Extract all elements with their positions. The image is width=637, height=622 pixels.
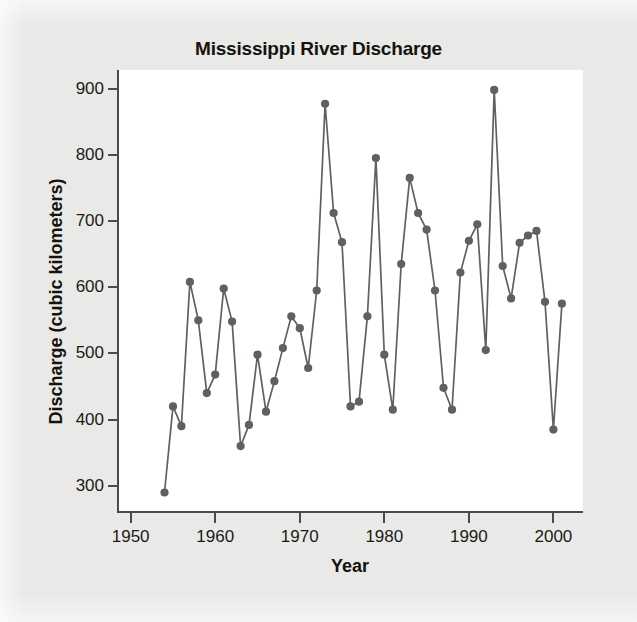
x-tick-2000 <box>552 513 554 523</box>
x-tick-label: 1960 <box>175 527 255 547</box>
x-tick-label: 1990 <box>429 527 509 547</box>
y-tick-500 <box>108 352 117 354</box>
y-tick-600 <box>108 286 117 288</box>
x-tick-label: 1980 <box>344 527 424 547</box>
x-tick-1970 <box>299 513 301 523</box>
x-tick-1990 <box>468 513 470 523</box>
y-axis-line <box>117 70 119 512</box>
x-tick-label: 1970 <box>260 527 340 547</box>
x-tick-label: 1950 <box>91 527 171 547</box>
x-axis-label: Year <box>117 556 583 577</box>
chart-title: Mississippi River Discharge <box>0 38 637 60</box>
x-axis-line <box>117 511 583 513</box>
y-tick-label: 900 <box>42 79 104 99</box>
x-tick-1960 <box>214 513 216 523</box>
x-tick-1980 <box>383 513 385 523</box>
y-axis-label: Discharge (cubic kilometers) <box>46 112 67 492</box>
y-tick-800 <box>108 154 117 156</box>
y-tick-400 <box>108 419 117 421</box>
chart-figure: Mississippi River Discharge 300400500600… <box>0 0 637 622</box>
plot-area <box>117 70 583 512</box>
y-tick-300 <box>108 485 117 487</box>
x-tick-label: 2000 <box>513 527 593 547</box>
x-tick-1950 <box>130 513 132 523</box>
y-tick-700 <box>108 220 117 222</box>
y-tick-900 <box>108 88 117 90</box>
